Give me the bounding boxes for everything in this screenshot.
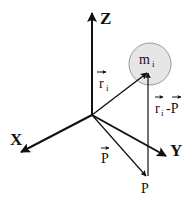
r-i-subscript: i — [106, 83, 109, 93]
p-vector-label: P — [101, 151, 109, 166]
r-i-minus-p-label-rest: -P — [166, 101, 179, 116]
z-axis-label: Z — [100, 9, 111, 28]
point-p-label: P — [141, 181, 149, 196]
mass-circle — [129, 43, 171, 85]
r-i-label: r — [99, 76, 104, 91]
r-i-minus-p-label-r: r — [155, 101, 160, 116]
vector-diagram: Z X Y m i r i r i -P P P — [0, 0, 195, 202]
y-axis-label: Y — [170, 141, 182, 160]
p-vector — [92, 115, 146, 176]
y-axis — [92, 115, 166, 156]
r-i-minus-p-subscript: i — [161, 108, 164, 118]
x-axis-label: X — [10, 130, 23, 149]
mass-label: m — [139, 52, 150, 67]
x-axis — [21, 115, 92, 152]
